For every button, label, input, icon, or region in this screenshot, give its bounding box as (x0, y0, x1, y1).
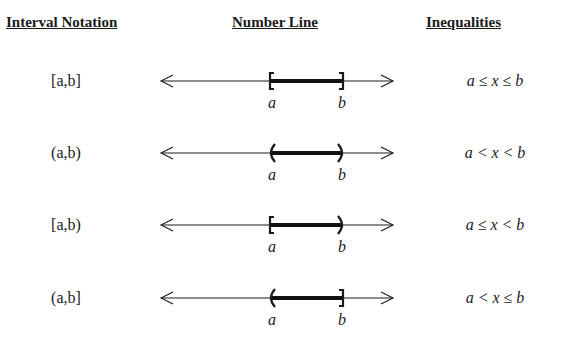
label-a-3: a (268, 238, 276, 255)
label-a-4: a (268, 311, 276, 328)
label-b-2: b (338, 166, 346, 183)
label-b-1: b (338, 94, 346, 111)
label-a-1: a (268, 94, 276, 111)
label-a-2: a (268, 166, 276, 183)
label-b-4: b (338, 311, 346, 328)
label-b-3: b (338, 238, 346, 255)
number-lines: abababab (0, 0, 569, 344)
